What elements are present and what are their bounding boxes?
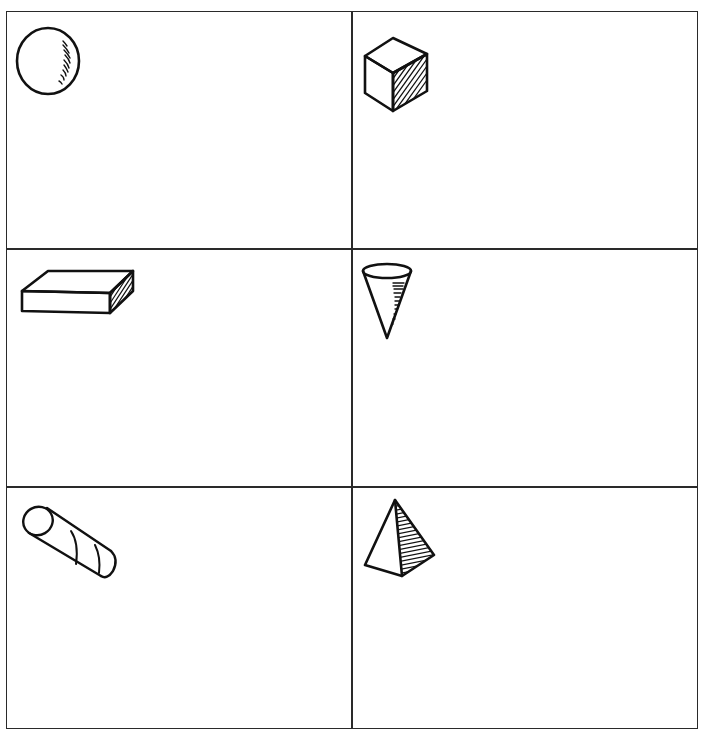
cube-icon bbox=[362, 25, 432, 101]
cell-label: pyramid bbox=[352, 487, 353, 488]
pyramid-icon bbox=[362, 497, 438, 581]
rectangular-prism-icon bbox=[19, 261, 137, 317]
cell-label: sphere bbox=[7, 12, 8, 13]
cell-cone: cone bbox=[352, 249, 699, 486]
cylinder-icon bbox=[19, 501, 119, 581]
cell-sphere: sphere bbox=[7, 12, 351, 248]
shape-grid: sphere cube bbox=[6, 11, 698, 729]
cell-pyramid: pyramid bbox=[352, 487, 699, 729]
cell-label: rectangular prism bbox=[7, 249, 8, 250]
cell-cylinder: cylinder bbox=[7, 487, 351, 729]
sphere-icon bbox=[15, 25, 85, 97]
cell-label: cube bbox=[352, 12, 353, 13]
cell-label: cone bbox=[352, 249, 353, 250]
cell-cube: cube bbox=[352, 12, 699, 248]
cone-icon bbox=[360, 261, 416, 341]
cell-rectangular-prism: rectangular prism bbox=[7, 249, 351, 486]
cell-label: cylinder bbox=[7, 487, 8, 488]
